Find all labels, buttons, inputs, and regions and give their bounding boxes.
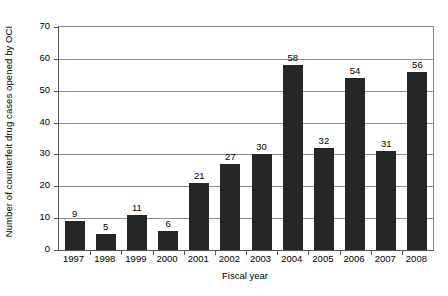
y-axis-tick-mark xyxy=(54,186,59,187)
y-axis-tick-label: 40 xyxy=(39,117,50,127)
bar-group: 56 xyxy=(402,27,433,250)
bar-value-label: 54 xyxy=(350,66,361,76)
x-axis-title-label: Fiscal year xyxy=(222,270,268,281)
bar xyxy=(127,215,147,250)
y-axis-tick-mark xyxy=(54,154,59,155)
bar-value-label: 56 xyxy=(412,60,423,70)
bar-group: 6 xyxy=(153,27,184,250)
bar xyxy=(158,231,178,250)
y-axis-tick-mark xyxy=(54,123,59,124)
bar-group: 58 xyxy=(277,27,308,250)
bar-value-label: 6 xyxy=(165,219,170,229)
y-axis-tick-label: 60 xyxy=(39,53,50,63)
y-axis-tick-label: 20 xyxy=(39,180,50,190)
bar xyxy=(314,148,334,250)
y-axis-tick-labels: 010203040506070 xyxy=(22,0,54,296)
bar-group: 21 xyxy=(184,27,215,250)
bar-group: 30 xyxy=(246,27,277,250)
bar-value-label: 58 xyxy=(287,53,298,63)
bar-group: 32 xyxy=(308,27,339,250)
x-axis-tick-label: 2007 xyxy=(375,253,396,265)
bar xyxy=(96,234,116,250)
bar-group: 11 xyxy=(121,27,152,250)
bar-group: 9 xyxy=(59,27,90,250)
bar-value-label: 11 xyxy=(132,203,142,213)
x-axis-tick-label: 2000 xyxy=(157,253,178,265)
bar-value-label: 32 xyxy=(319,136,330,146)
bar-value-label: 9 xyxy=(72,209,77,219)
bar-value-label: 5 xyxy=(103,222,108,232)
bar-value-label: 30 xyxy=(256,142,267,152)
y-axis-title: Number of counterfeit drug cases opened … xyxy=(0,0,18,262)
x-axis-tick-labels: 1997199819992000200120022003200420052006… xyxy=(58,253,432,267)
y-axis-tick-mark xyxy=(54,218,59,219)
y-axis-tick-mark xyxy=(54,250,59,251)
bar xyxy=(407,72,427,250)
bar xyxy=(283,65,303,250)
x-axis-tick-label: 2005 xyxy=(312,253,333,265)
x-axis-tick-label: 1998 xyxy=(94,253,115,265)
bar-group: 54 xyxy=(340,27,371,250)
plot-area: 951162127305832543156 xyxy=(58,26,434,251)
y-axis-tick-label: 50 xyxy=(39,85,50,95)
x-axis-tick-label: 2001 xyxy=(188,253,209,265)
y-axis-tick-mark xyxy=(54,91,59,92)
bars-layer: 951162127305832543156 xyxy=(59,27,433,250)
y-axis-title-label: Number of counterfeit drug cases opened … xyxy=(4,25,15,237)
x-axis-tick-label: 1999 xyxy=(125,253,146,265)
y-axis-tick-mark xyxy=(54,59,59,60)
y-axis-tick-label: 10 xyxy=(39,212,50,222)
bar xyxy=(65,221,85,250)
x-axis-tick-label: 2004 xyxy=(281,253,302,265)
x-axis-tick-label: 2002 xyxy=(219,253,240,265)
y-axis-tick-mark xyxy=(54,27,59,28)
bar xyxy=(252,154,272,250)
bar-group: 27 xyxy=(215,27,246,250)
bar xyxy=(376,151,396,250)
y-axis-tick-label: 70 xyxy=(39,21,50,31)
x-axis-tick-label: 1997 xyxy=(63,253,84,265)
y-axis-tick-label: 30 xyxy=(39,148,50,158)
x-axis-tick-label: 2003 xyxy=(250,253,271,265)
bar xyxy=(345,78,365,250)
bar-value-label: 21 xyxy=(194,171,205,181)
bar-group: 31 xyxy=(371,27,402,250)
x-axis-title: Fiscal year xyxy=(58,270,432,281)
bar xyxy=(189,183,209,250)
y-axis-tick-label: 0 xyxy=(45,244,50,254)
x-axis-tick-label: 2006 xyxy=(344,253,365,265)
x-axis-tick-label: 2008 xyxy=(406,253,427,265)
bar-group: 5 xyxy=(90,27,121,250)
bar-chart: Number of counterfeit drug cases opened … xyxy=(0,0,448,296)
bar-value-label: 27 xyxy=(225,152,236,162)
bar-value-label: 31 xyxy=(381,139,392,149)
bar xyxy=(220,164,240,250)
